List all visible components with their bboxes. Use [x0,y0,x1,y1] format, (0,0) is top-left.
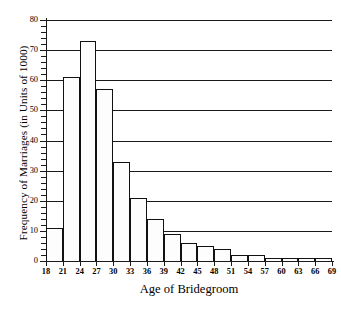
x-axis-line [40,261,334,262]
x-tick-63 [298,261,299,266]
x-tick-48 [214,261,215,266]
x-tick-60 [282,261,283,266]
y-tick-label-20: 20 [12,197,38,205]
x-tick-30 [113,261,114,266]
x-tick-18 [46,261,47,266]
histogram-chart: Frequency of Marriages (in Units of 1000… [0,0,341,311]
bar-39-42 [164,234,181,261]
x-tick-54 [248,261,249,266]
x-tick-42 [181,261,182,266]
y-tick-label-60: 60 [12,76,38,84]
bar-27-30 [96,89,113,261]
x-tick-39 [164,261,165,266]
x-tick-69 [332,261,333,266]
x-tick-21 [63,261,64,266]
bar-54-57 [248,255,265,261]
y-tick-label-30: 30 [12,167,38,175]
bar-51-54 [231,255,248,261]
plot-area [46,20,332,261]
bar-57-60 [265,258,282,261]
bar-48-51 [214,249,231,261]
bar-66-69 [315,258,332,261]
bar-36-39 [147,219,164,261]
bar-63-66 [298,258,315,261]
y-tick-label-40: 40 [12,137,38,145]
x-tick-45 [197,261,198,266]
y-tick-label-50: 50 [12,106,38,114]
y-tick-label-70: 70 [12,46,38,54]
y-tick-label-0: 0 [12,257,38,265]
x-tick-33 [130,261,131,266]
bar-30-33 [113,162,130,261]
bar-24-27 [80,41,97,261]
bar-42-45 [181,243,198,261]
x-tick-36 [147,261,148,266]
gridline-y-80 [46,20,332,21]
x-tick-27 [96,261,97,266]
bar-45-48 [197,246,214,261]
x-tick-66 [315,261,316,266]
y-tick-label-80: 80 [12,16,38,24]
x-axis-title: Age of Bridegroom [46,281,332,297]
bar-33-36 [130,198,147,261]
bar-21-24 [63,77,80,261]
bar-60-63 [282,258,299,261]
x-tick-51 [231,261,232,266]
y-tick-label-10: 10 [12,227,38,235]
x-tick-24 [80,261,81,266]
x-tick-57 [265,261,266,266]
x-tick-label-69: 69 [322,267,341,276]
bar-18-21 [46,228,63,261]
